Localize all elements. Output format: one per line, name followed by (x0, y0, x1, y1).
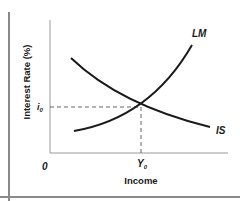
is-curve (71, 58, 210, 127)
y-axis-label: Interest Rate (%) (21, 45, 32, 120)
is-curve-label: IS (216, 125, 226, 136)
equilibrium-income-label: Y0 (137, 158, 148, 170)
lm-curve (74, 45, 192, 131)
lm-curve-label: LM (192, 28, 207, 39)
origin-label: 0 (42, 161, 48, 172)
equilibrium-rate-label: i0 (37, 102, 44, 113)
is-lm-diagram: LM IS i0 Y0 0 Income Interest Rate (%) (0, 0, 240, 201)
x-axis-label: Income (124, 175, 157, 186)
